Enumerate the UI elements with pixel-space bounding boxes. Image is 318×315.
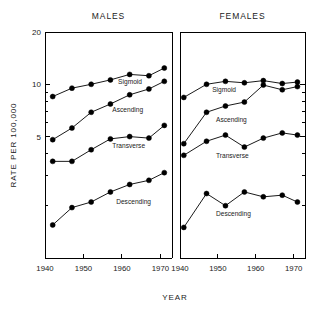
y-tick-label: 20 (32, 28, 41, 37)
data-point-females-ascending (295, 84, 300, 89)
data-point-females-transverse (223, 133, 228, 138)
data-point-males-sigmoid (127, 72, 132, 77)
data-point-males-ascending (50, 137, 55, 142)
x-tick-label-males: 1950 (75, 264, 93, 273)
panel-title-males: MALES (92, 11, 125, 21)
data-point-males-transverse (89, 147, 94, 152)
series-label-males-sigmoid: Sigmoid (118, 78, 142, 86)
x-tick-label-males: 1960 (113, 264, 131, 273)
data-point-males-ascending (162, 79, 167, 84)
females-axis-frame (180, 32, 305, 258)
chart-figure: 5102019401950196019701940195019601970Sig… (0, 0, 318, 315)
data-point-males-transverse (108, 136, 113, 141)
y-axis-title: RATE PER 100,000 (9, 103, 18, 188)
data-point-females-sigmoid (181, 95, 186, 100)
x-tick-label-females: 1950 (209, 264, 227, 273)
series-label-females-descending: Descending (216, 210, 251, 218)
data-point-females-sigmoid (242, 80, 247, 85)
data-point-females-descending (242, 189, 247, 194)
data-point-females-sigmoid (204, 82, 209, 87)
series-label-males-descending: Descending (116, 198, 151, 206)
x-tick-label-males: 1940 (36, 264, 54, 273)
data-point-males-transverse (127, 134, 132, 139)
data-point-males-descending (50, 222, 55, 227)
panel-males: SigmoidAscendingTransverseDescending (50, 66, 167, 228)
data-point-males-sigmoid (162, 66, 167, 71)
x-tick-label-males: 1970 (152, 264, 170, 273)
data-point-males-transverse (50, 159, 55, 164)
data-point-females-transverse (204, 139, 209, 144)
data-point-males-sigmoid (69, 86, 74, 91)
data-point-males-sigmoid (108, 77, 113, 82)
data-point-females-ascending (280, 87, 285, 92)
data-point-males-sigmoid (89, 82, 94, 87)
data-point-males-sigmoid (146, 73, 151, 78)
y-tick-label: 5 (37, 133, 42, 142)
data-point-males-descending (69, 205, 74, 210)
data-point-females-descending (261, 194, 266, 199)
series-label-females-sigmoid: Sigmoid (212, 86, 236, 94)
series-label-females-ascending: Ascending (216, 116, 247, 124)
data-point-females-ascending (223, 103, 228, 108)
y-tick-label: 10 (32, 80, 41, 89)
series-label-males-ascending: Ascending (112, 106, 143, 114)
data-point-males-transverse (146, 136, 151, 141)
data-point-females-transverse (261, 136, 266, 141)
data-point-females-descending (181, 225, 186, 230)
data-point-males-sigmoid (50, 94, 55, 99)
data-point-males-descending (162, 170, 167, 175)
data-point-males-descending (127, 182, 132, 187)
data-point-females-sigmoid (295, 80, 300, 85)
colon-cancer-rate-chart: 5102019401950196019701940195019601970Sig… (0, 0, 318, 315)
data-point-females-transverse (280, 130, 285, 135)
data-point-females-sigmoid (280, 81, 285, 86)
data-point-females-ascending (181, 141, 186, 146)
x-axis-title: YEAR (162, 293, 187, 302)
data-point-females-transverse (181, 153, 186, 158)
data-point-females-sigmoid (223, 79, 228, 84)
plot-root: 5102019401950196019701940195019601970Sig… (9, 11, 305, 302)
data-point-females-descending (223, 203, 228, 208)
data-point-females-ascending (204, 110, 209, 115)
data-point-males-descending (146, 178, 151, 183)
data-point-females-ascending (242, 100, 247, 105)
data-point-males-transverse (69, 159, 74, 164)
series-label-females-transverse: Transverse (216, 152, 249, 159)
series-line-females-ascending (184, 85, 298, 144)
data-point-males-descending (89, 200, 94, 205)
panel-females: SigmoidAscendingTransverseDescending (181, 78, 300, 230)
males-axis-frame (45, 32, 172, 258)
series-line-males-transverse (53, 125, 165, 161)
data-point-females-transverse (242, 145, 247, 150)
data-point-males-ascending (146, 86, 151, 91)
data-point-males-ascending (89, 110, 94, 115)
data-point-males-transverse (162, 123, 167, 128)
data-point-males-ascending (127, 92, 132, 97)
series-line-males-sigmoid (53, 68, 165, 96)
data-point-females-descending (280, 193, 285, 198)
data-point-females-ascending (261, 83, 266, 88)
data-point-females-descending (295, 200, 300, 205)
series-label-males-transverse: Transverse (112, 142, 145, 149)
data-point-females-transverse (295, 133, 300, 138)
data-point-males-ascending (69, 126, 74, 131)
data-point-females-descending (204, 191, 209, 196)
x-tick-label-females: 1970 (285, 264, 303, 273)
panel-title-females: FEMALES (220, 11, 266, 21)
x-tick-label-females: 1960 (247, 264, 265, 273)
x-tick-label-females: 1940 (171, 264, 189, 273)
data-point-males-descending (108, 189, 113, 194)
